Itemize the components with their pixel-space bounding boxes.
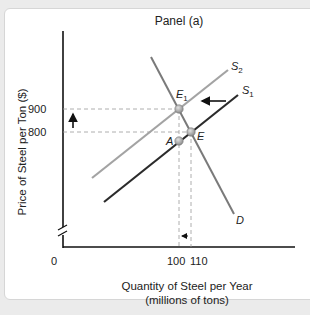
label-e1: E1 bbox=[176, 88, 188, 103]
supply-demand-chart: Panel (a) Price of Steel per Ton ($) 900… bbox=[0, 0, 310, 315]
label-s2: S2 bbox=[231, 60, 243, 75]
guide-lines bbox=[63, 109, 191, 247]
x-axis-label: Quantity of Steel per Year bbox=[121, 280, 252, 292]
x-axis-sublabel: (millions of tons) bbox=[145, 294, 229, 306]
label-e: E bbox=[197, 130, 205, 142]
x-tick-0: 0 bbox=[51, 255, 57, 267]
x-tick-110: 110 bbox=[190, 255, 208, 267]
chart-title: Panel (a) bbox=[155, 14, 204, 28]
x-tick-100: 100 bbox=[167, 255, 185, 267]
supply-curve-s1 bbox=[104, 95, 238, 202]
y-tick-800: 800 bbox=[28, 126, 46, 138]
supply-curve-s2 bbox=[92, 70, 228, 178]
point-e1 bbox=[175, 105, 183, 113]
y-axis-label: Price of Steel per Ton ($) bbox=[16, 88, 28, 215]
point-e bbox=[187, 128, 195, 136]
label-a: A bbox=[165, 135, 173, 147]
label-d: D bbox=[236, 214, 244, 226]
point-a bbox=[175, 137, 183, 145]
label-s1: S1 bbox=[242, 84, 254, 99]
y-tick-900: 900 bbox=[28, 103, 46, 115]
